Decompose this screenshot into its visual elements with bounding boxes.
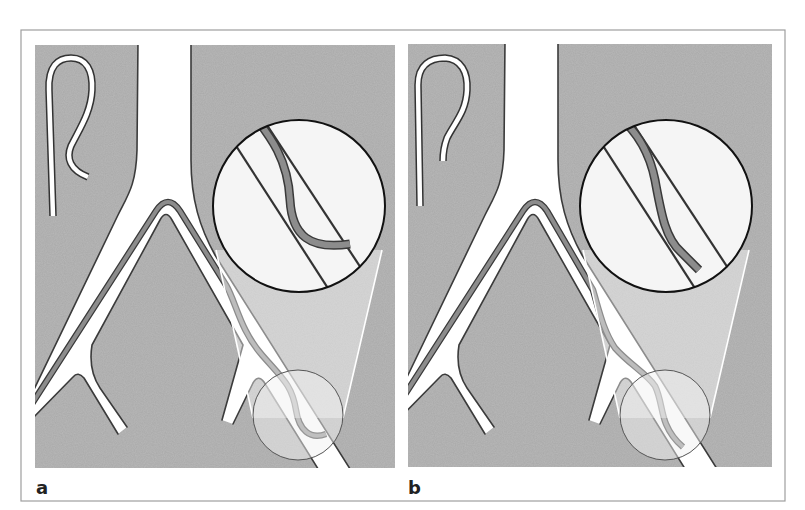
figure: a [0,0,805,510]
figure-svg: a [0,0,805,510]
region-of-interest-circle [253,370,343,460]
region-of-interest-circle [620,370,710,460]
panel-b-label: b [408,477,421,498]
panel-a: a [28,40,395,498]
panel-b: b [395,40,772,498]
panel-a-label: a [36,477,48,498]
